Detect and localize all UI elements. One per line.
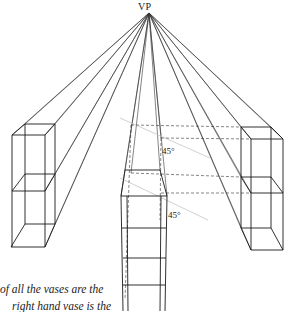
left-vase <box>11 124 55 247</box>
caption-line-1: of all the vases are the <box>0 283 103 295</box>
caption-line-2: right hand vase is the <box>12 300 111 312</box>
vanishing-point-label: VP <box>138 1 151 12</box>
angle-label-lower: 45° <box>168 210 181 220</box>
angle-label-upper: 45° <box>162 146 175 156</box>
center-vase <box>121 170 167 311</box>
diagonal-45-lines <box>120 118 210 220</box>
vanishing-lines <box>12 13 283 250</box>
dashed-transfer-lines <box>125 125 251 300</box>
right-vase <box>241 127 283 250</box>
